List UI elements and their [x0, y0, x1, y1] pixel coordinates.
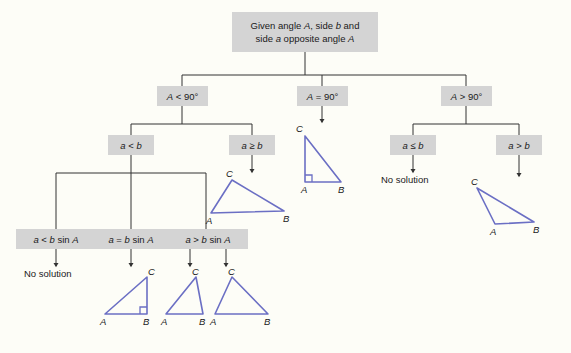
root-line1: Given angle A, side b and: [251, 20, 360, 31]
condition-box-a-lt-bsinA: a < b sin A: [16, 229, 96, 249]
condition-box-a-lt-90: A < 90°: [157, 86, 208, 106]
label-a-lt-bsinA: a < b sin A: [33, 233, 78, 246]
vertex-label-B-sol1: B: [199, 316, 205, 327]
condition-box-a-gt-90: A > 90°: [441, 86, 492, 106]
outcome-label-left: No solution: [24, 268, 72, 279]
root-box: Given angle A, side b and side a opposit…: [232, 12, 378, 52]
vertex-label-C-right-at-A: C: [296, 123, 303, 134]
triangle-right-angle-at-B: [105, 277, 147, 314]
vertex-label-A-obtuse: A: [490, 226, 496, 237]
label-a-gt-bsinA: a > b sin A: [185, 233, 230, 246]
vertex-label-C-sol1: C: [192, 266, 199, 277]
vertex-label-C-acute: C: [226, 168, 233, 179]
triangle-obtuse-a-gt-b: [477, 188, 534, 224]
condition-box-a-gt-b: a > b: [496, 135, 542, 155]
vertex-label-B-right-at-A: B: [338, 184, 344, 195]
triangle-right-angle-at-A: [305, 136, 341, 182]
flowchart-canvas: Given angle A, side b and side a opposit…: [0, 0, 571, 353]
vertex-label-A-right-at-B: A: [100, 316, 106, 327]
label-a-le-b: a ≤ b: [402, 139, 423, 152]
right-angle-mark-A: [305, 175, 312, 182]
vertex-label-B-right-at-B: B: [143, 316, 149, 327]
connector-lines: [0, 0, 571, 353]
condition-box-a-eq-bsinA: a = b sin A: [91, 229, 171, 249]
condition-box-a-lt-b: a < b: [108, 135, 154, 155]
vertex-label-B-obtuse: B: [533, 224, 539, 235]
condition-box-a-le-b: a ≤ b: [390, 135, 436, 155]
vertex-label-A-right-at-A: A: [301, 184, 307, 195]
label-a-eq-bsinA: a = b sin A: [108, 233, 153, 246]
root-line2: side a opposite angle A: [256, 33, 355, 44]
vertex-label-C-sol2: C: [228, 266, 235, 277]
vertex-label-A-acute: A: [206, 215, 212, 226]
label-a-gt-b: a > b: [508, 139, 529, 152]
label-a-eq-90: A = 90°: [307, 90, 339, 103]
triangle-solution-one: [166, 277, 203, 314]
condition-box-a-ge-b: a ≥ b: [229, 135, 275, 155]
condition-box-a-eq-90: A = 90°: [297, 86, 348, 106]
vertex-label-C-obtuse: C: [471, 176, 478, 187]
vertex-label-C-right-at-B: C: [148, 266, 155, 277]
outcome-no-solution-right: No solution: [381, 174, 429, 185]
condition-box-a-gt-bsinA: a > b sin A: [168, 229, 248, 249]
outcome-label-right: No solution: [381, 174, 429, 185]
right-angle-mark-B: [140, 307, 147, 314]
triangle-solution-two: [215, 277, 268, 314]
vertex-label-A-sol2: A: [210, 316, 216, 327]
label-a-ge-b: a ≥ b: [241, 139, 262, 152]
vertex-label-B-acute: B: [283, 213, 289, 224]
label-a-gt-90: A > 90°: [451, 90, 483, 103]
triangle-acute-a-ge-b: [211, 180, 284, 213]
vertex-label-B-sol2: B: [264, 316, 270, 327]
label-a-lt-90: A < 90°: [167, 90, 199, 103]
outcome-no-solution-left: No solution: [24, 268, 72, 279]
label-a-lt-b: a < b: [120, 139, 141, 152]
vertex-label-A-sol1: A: [161, 316, 167, 327]
